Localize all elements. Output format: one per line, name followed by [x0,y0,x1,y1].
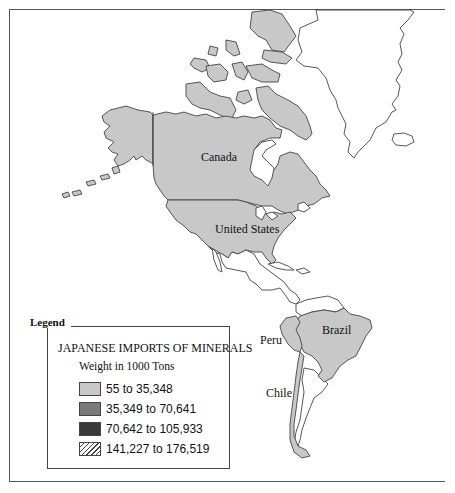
arctic-island [226,40,240,56]
arctic-island [246,64,280,82]
arctic-island [208,46,218,56]
legend-box: Legend JAPANESE IMPORTS OF MINERALS Weig… [47,326,230,469]
label-brazil: Brazil [322,323,351,338]
legend-item: 35,349 to 70,641 [79,401,196,417]
legend-subheading: Weight in 1000 Tons [79,360,175,372]
hispaniola [296,268,310,274]
mexico-central-america [208,246,300,304]
arctic-island [232,62,248,80]
label-united-states: United States [215,222,279,237]
aleutian-island [100,174,110,180]
alaska-shape [102,106,153,166]
legend-item-label: 55 to 35,348 [106,382,173,396]
legend-item: 141,227 to 176,519 [79,441,209,457]
label-peru: Peru [260,333,282,348]
arctic-island [250,10,296,52]
arctic-island [236,90,252,104]
label-chile: Chile [266,386,292,401]
arctic-island [206,64,228,82]
legend-item: 70,642 to 105,933 [79,421,203,437]
legend-swatch-dark-gray [79,422,101,436]
legend-title: Legend [26,316,71,328]
iceland-shape [392,133,414,146]
legend-heading: JAPANESE IMPORTS OF MINERALS [58,341,253,356]
aleutian-island [86,180,96,186]
legend-item-label: 70,642 to 105,933 [106,422,203,436]
legend-item-label: 141,227 to 176,519 [106,442,209,456]
legend-swatch-light-gray [79,382,101,396]
legend-item: 55 to 35,348 [79,381,173,397]
aleutian-island [62,192,70,198]
arctic-island [262,50,292,64]
label-canada: Canada [201,150,237,165]
legend-swatch-medium-gray [79,402,101,416]
arctic-island [186,82,236,118]
legend-swatch-hatched [79,442,101,456]
cuba [268,262,294,270]
legend-item-label: 35,349 to 70,641 [106,402,196,416]
aleutian-island [112,166,120,174]
aleutian-island [72,190,82,196]
